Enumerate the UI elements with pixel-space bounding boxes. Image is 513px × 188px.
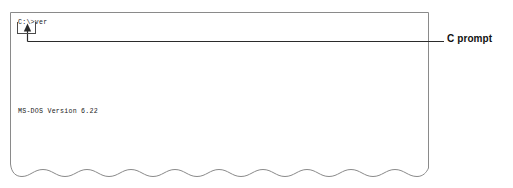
- figure-root: C:\>ver MS-DOS Version 6.22 C:\>copy con…: [0, 0, 513, 188]
- terminal-output: MS-DOS Version 6.22 C:\>copy config.sys …: [18, 16, 418, 188]
- terminal-line-version: MS-DOS Version 6.22: [18, 106, 418, 117]
- terminal-line: [18, 72, 418, 83]
- terminal-line: [18, 38, 418, 49]
- annotation-label-c-prompt: C prompt: [447, 33, 492, 44]
- terminal-line: [18, 139, 418, 150]
- terminal-line: [18, 173, 418, 184]
